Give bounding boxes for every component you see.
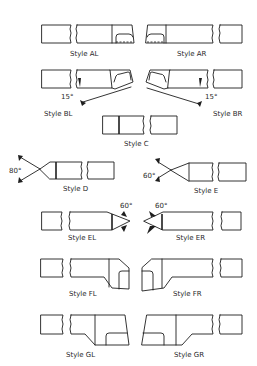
style-er-angle: 60° xyxy=(155,202,167,210)
style-er-label: Style ER xyxy=(176,234,205,242)
style-al-label: Style AL xyxy=(70,50,99,58)
style-el-angle: 60° xyxy=(120,202,132,210)
style-gr-drawing xyxy=(142,315,242,345)
style-c-drawing xyxy=(103,116,177,134)
tool-bit-styles-diagram: Style AL Style AR 15° Style BL 15° Style… xyxy=(0,0,257,366)
style-er-drawing xyxy=(144,211,241,234)
style-br-angle: 15° xyxy=(205,93,217,101)
style-al-drawing xyxy=(42,25,134,43)
style-e-label: Style E xyxy=(194,187,218,195)
style-br-label: Style BR xyxy=(213,110,243,118)
style-e-angle: 60° xyxy=(143,172,155,180)
style-gl-label: Style GL xyxy=(66,351,95,359)
style-el-drawing xyxy=(42,211,130,232)
style-gr-label: Style GR xyxy=(174,351,204,359)
style-fl-drawing xyxy=(41,259,129,289)
style-fl-label: Style FL xyxy=(69,290,97,298)
style-d-drawing xyxy=(18,155,114,183)
style-ar-drawing xyxy=(146,25,242,43)
style-bl-angle: 15° xyxy=(61,93,73,101)
style-d-label-text: Style D xyxy=(63,185,88,193)
style-fr-label: Style FR xyxy=(173,290,202,298)
style-el-label: Style EL xyxy=(68,234,96,242)
style-bl-drawing xyxy=(42,70,133,106)
style-fr-drawing xyxy=(142,259,242,291)
style-ar-label: Style AR xyxy=(177,50,207,58)
style-d-angle: 80° xyxy=(9,167,21,175)
style-bl-label: Style BL xyxy=(44,110,73,118)
style-c-label: Style C xyxy=(124,140,149,148)
style-gl-drawing xyxy=(41,315,129,345)
style-br-drawing xyxy=(146,70,242,107)
style-e-drawing xyxy=(155,158,246,182)
